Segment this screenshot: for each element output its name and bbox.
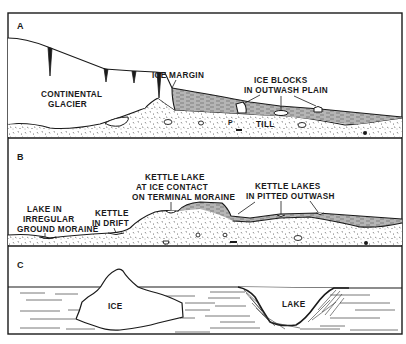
label-outwash-plain: IN OUTWASH PLAIN — [244, 86, 328, 95]
ice-block — [236, 102, 246, 113]
panel-b-label: B — [17, 152, 24, 162]
label-kettle: KETTLE — [95, 209, 129, 218]
kettle-lake — [108, 233, 124, 235]
pebble — [298, 123, 306, 128]
label-in-drift: IN DRIFT — [92, 219, 129, 228]
panel-c: C ICE LAKE — [8, 260, 402, 332]
pebble — [196, 233, 200, 237]
ice-block — [314, 107, 322, 113]
pebble — [199, 121, 204, 125]
glacial-landforms-diagram: A CONTINENTAL GLACIER ICE MARGIN ICE — [0, 0, 406, 344]
label-terminal-moraine: ON TERMINAL MORAINE — [132, 193, 236, 202]
label-kettle-lakes: KETTLE LAKES — [255, 182, 321, 191]
panel-c-label: C — [17, 260, 24, 270]
panel-b: B LAKE IN IRREGULAR GROUND MORAINE KETTL… — [8, 152, 402, 245]
pebble — [230, 241, 237, 243]
pebble — [363, 131, 367, 135]
kettle-lake — [316, 213, 324, 215]
label-kettle-lake: KETTLE LAKE — [145, 173, 205, 182]
label-irregular: IRREGULAR — [23, 215, 74, 224]
label-continental: CONTINENTAL — [41, 90, 102, 99]
pebble — [236, 129, 242, 131]
pebble — [223, 233, 227, 237]
label-ice: ICE — [108, 302, 123, 311]
panel-a-label: A — [17, 21, 24, 31]
label-glacier: GLACIER — [48, 100, 87, 109]
label-ice-blocks: ICE BLOCKS — [254, 76, 308, 85]
ice-block — [274, 111, 288, 116]
svg-text:P: P — [228, 119, 233, 126]
label-ice-contact: AT ICE CONTACT — [136, 183, 208, 192]
sediment-lines — [20, 292, 398, 332]
label-pitted-outwash: IN PITTED OUTWASH — [246, 192, 335, 201]
kettle-lake — [277, 215, 285, 217]
ice-block-buried — [76, 269, 183, 330]
label-lake-in: LAKE IN — [27, 205, 62, 214]
label-lake: LAKE — [282, 300, 306, 309]
pebble — [364, 241, 368, 245]
panel-a: A CONTINENTAL GLACIER ICE MARGIN ICE — [8, 21, 402, 137]
pebble — [163, 241, 169, 244]
pebble — [164, 120, 172, 125]
label-till: TILL — [256, 120, 274, 129]
pebble — [294, 236, 302, 241]
label-ground-moraine: GROUND MORAINE — [17, 225, 99, 234]
label-ice-margin: ICE MARGIN — [152, 71, 204, 80]
